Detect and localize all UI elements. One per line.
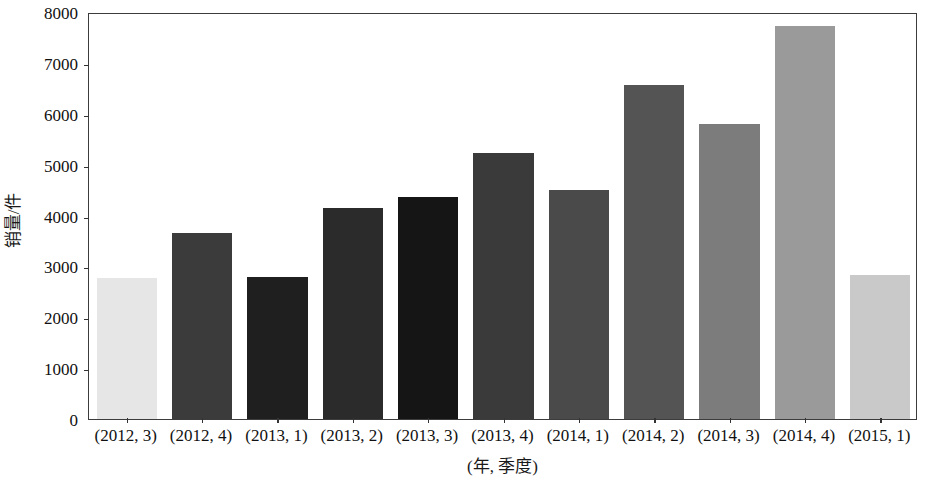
x-axis-tick-label: (2014, 4) (773, 424, 835, 448)
x-axis-tick-label: (2012, 4) (170, 424, 232, 448)
y-axis-tick-mark (84, 116, 89, 117)
x-axis-tick-label: (2013, 1) (245, 424, 307, 448)
x-axis-tick-mark (805, 418, 806, 423)
y-axis-tick-mark (84, 65, 89, 66)
y-axis-tick-label: 7000 (22, 55, 78, 72)
y-axis-tick-mark (84, 218, 89, 219)
bars-layer (89, 14, 916, 419)
y-axis-tick-label: 1000 (22, 361, 78, 378)
x-axis-tick-label: (2014, 3) (697, 424, 759, 448)
bar (850, 275, 910, 419)
bar (247, 277, 307, 419)
y-axis-tick-label: 6000 (22, 106, 78, 123)
bar-chart: 销量/件 010002000300040005000600070008000 (… (0, 0, 926, 480)
x-axis-tick-mark (504, 418, 505, 423)
y-axis-tick-label: 2000 (22, 310, 78, 327)
y-axis-tick-labels: 010002000300040005000600070008000 (22, 0, 84, 440)
bar (549, 190, 609, 419)
bar (97, 278, 157, 419)
x-axis-tick-labels: (2012, 3)(2012, 4)(2013, 1)(2013, 2)(201… (88, 424, 917, 450)
x-axis-tick-label: (2013, 3) (396, 424, 458, 448)
bar (624, 85, 684, 419)
x-axis-tick-mark (880, 418, 881, 423)
y-axis-tick-label: 4000 (22, 208, 78, 225)
y-axis-title: 销量/件 (0, 140, 24, 300)
plot-area (88, 13, 917, 420)
x-axis-tick-mark (579, 418, 580, 423)
x-axis-tick-mark (202, 418, 203, 423)
bar (323, 208, 383, 419)
x-axis-tick-label: (2014, 2) (622, 424, 684, 448)
x-axis-tick-mark (127, 418, 128, 423)
x-axis-tick-label: (2013, 2) (321, 424, 383, 448)
y-axis-tick-label: 0 (22, 412, 78, 429)
x-axis-tick-mark (730, 418, 731, 423)
y-axis-tick-label: 3000 (22, 259, 78, 276)
x-axis-tick-label: (2012, 3) (95, 424, 157, 448)
x-axis-tick-mark (353, 418, 354, 423)
y-axis-tick-label: 8000 (22, 5, 78, 22)
x-axis-tick-mark (654, 418, 655, 423)
bar (172, 233, 232, 419)
x-axis-tick-label: (2015, 1) (848, 424, 910, 448)
bar (775, 26, 835, 419)
y-axis-tick-mark (84, 167, 89, 168)
y-axis-tick-mark (84, 319, 89, 320)
y-axis-title-label: 销量/件 (0, 192, 25, 248)
bar (699, 124, 759, 419)
bar (473, 153, 533, 419)
y-axis-tick-mark (84, 370, 89, 371)
x-axis-tick-label: (2013, 4) (471, 424, 533, 448)
x-axis-tick-mark (277, 418, 278, 423)
x-axis-tick-mark (428, 418, 429, 423)
y-axis-tick-mark (84, 268, 89, 269)
y-axis-tick-label: 5000 (22, 157, 78, 174)
x-axis-title: (年, 季度) (88, 452, 917, 477)
bar (398, 197, 458, 419)
x-axis-tick-label: (2014, 1) (547, 424, 609, 448)
